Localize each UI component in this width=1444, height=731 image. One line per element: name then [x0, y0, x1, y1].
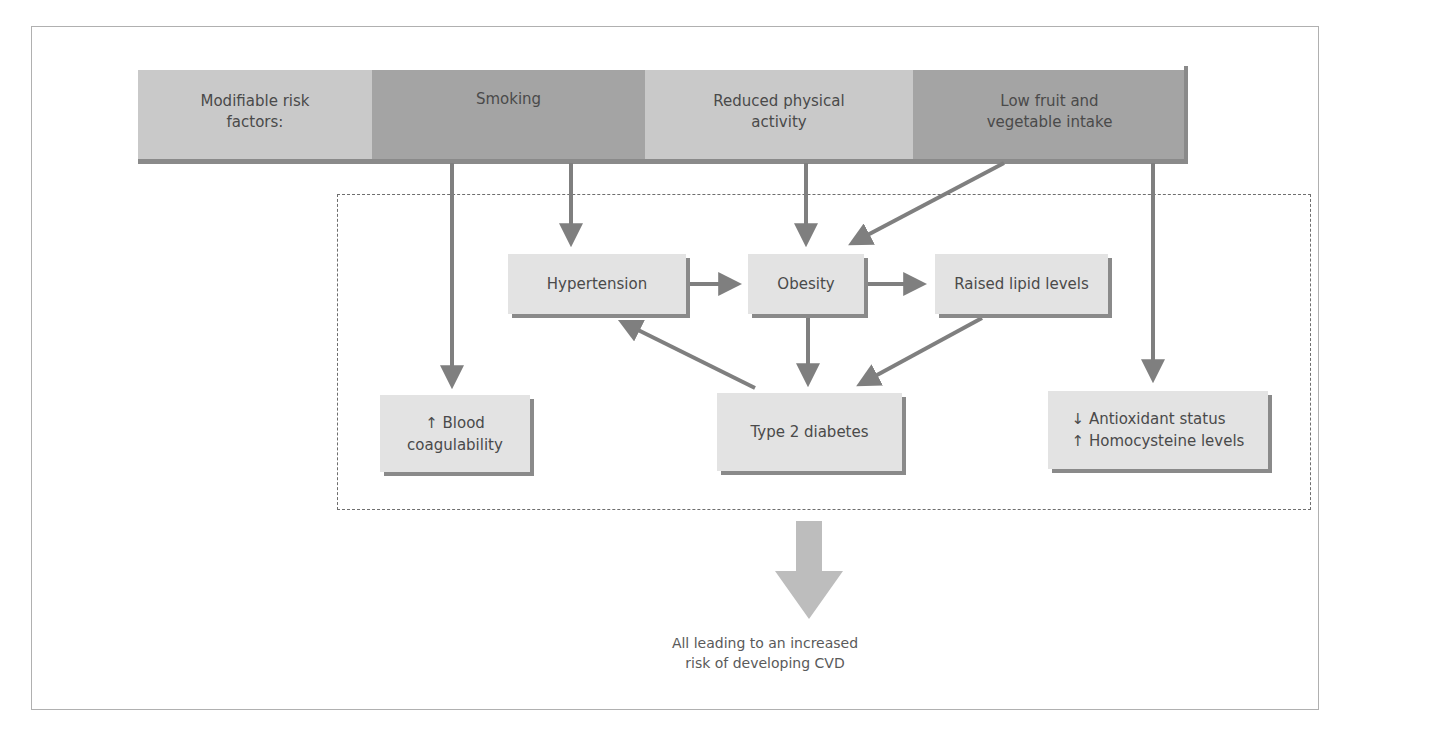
- connector-arrows: [0, 0, 1444, 731]
- obesity-label: Obesity: [777, 273, 834, 295]
- outcome-line-1: All leading to an increased: [672, 635, 858, 651]
- node-antioxidant-homocysteine: ↓ Antioxidant status↑ Homocysteine level…: [1048, 391, 1268, 469]
- node-hypertension: Hypertension: [508, 254, 686, 314]
- arrow-diabetes-to-hypertension: [628, 325, 755, 388]
- node-type2-diabetes: Type 2 diabetes: [717, 393, 902, 471]
- coagulability-line-2: coagulability: [407, 436, 503, 454]
- node-blood-coagulability: ↑ Bloodcoagulability: [380, 395, 530, 472]
- big-down-arrow-icon: [775, 521, 843, 619]
- diabetes-label: Type 2 diabetes: [750, 421, 868, 443]
- outcome-caption: All leading to an increased risk of deve…: [640, 633, 890, 673]
- homocysteine-line-2: ↑ Homocysteine levels: [1072, 432, 1245, 450]
- coagulability-line-1: ↑ Blood: [425, 414, 485, 432]
- arrow-fruit-to-obesity: [858, 163, 1004, 240]
- lipids-label: Raised lipid levels: [954, 273, 1089, 295]
- node-obesity: Obesity: [748, 254, 864, 314]
- antioxidant-line-1: ↓ Antioxidant status: [1072, 410, 1226, 428]
- node-raised-lipids: Raised lipid levels: [935, 254, 1108, 314]
- hypertension-label: Hypertension: [547, 273, 647, 295]
- arrow-lipids-to-diabetes: [866, 318, 982, 381]
- outcome-line-2: risk of developing CVD: [685, 655, 844, 671]
